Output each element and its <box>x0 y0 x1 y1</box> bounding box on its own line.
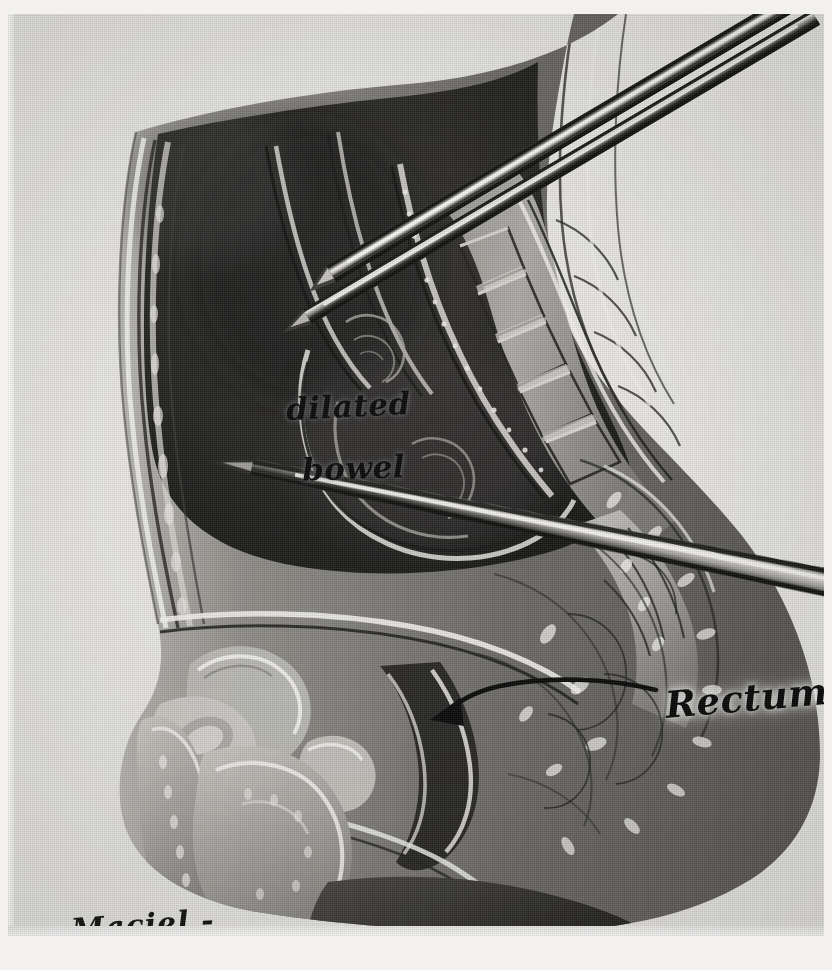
plate-left-edge <box>8 14 14 936</box>
anatomy-figure <box>8 14 824 936</box>
label-dilated-bowel-line1: dilated <box>285 385 411 427</box>
illustration-page: dilated bowel Rectum - Maciel - <box>0 0 832 970</box>
halftone-overlay <box>8 14 824 936</box>
label-dilated-bowel-line2: bowel <box>301 448 405 488</box>
plate-bottom-edge <box>8 926 824 936</box>
illustration-plate: dilated bowel Rectum - Maciel - <box>8 14 824 936</box>
